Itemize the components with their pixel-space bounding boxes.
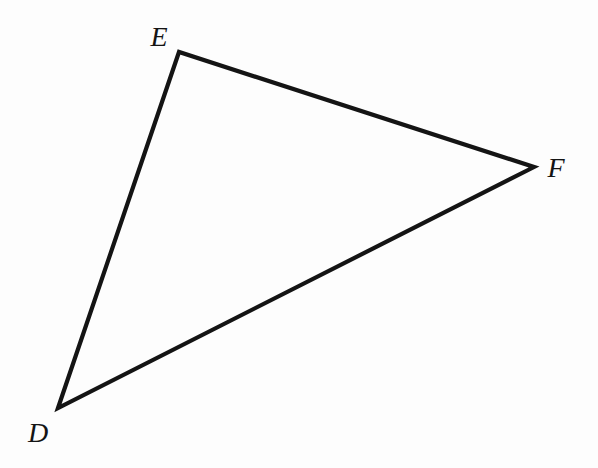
triangle-figure: D E F xyxy=(0,0,598,468)
vertex-label-f: F xyxy=(548,154,565,182)
triangle-drawing-canvas xyxy=(0,0,598,468)
triangle-def xyxy=(58,52,534,408)
vertex-label-d: D xyxy=(28,419,48,447)
vertex-label-e: E xyxy=(151,23,168,51)
